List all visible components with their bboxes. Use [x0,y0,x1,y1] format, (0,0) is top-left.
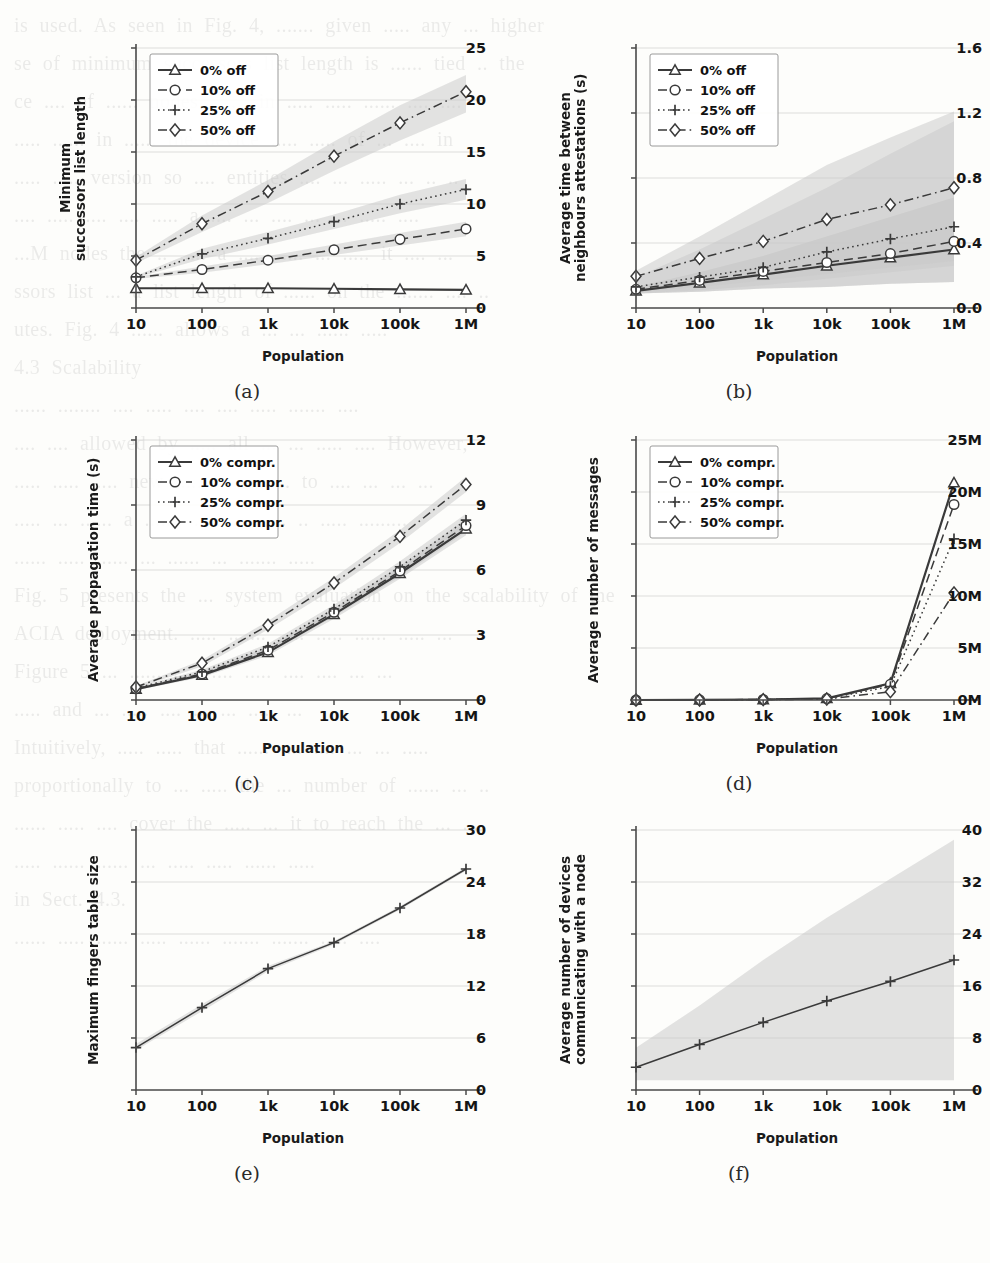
y-tick-label: 6 [367,1030,486,1046]
y-tick-label: 0 [367,692,486,708]
x-tick-label: 10k [812,316,842,332]
y-tick-label: 12 [367,432,486,448]
series-markers [131,864,471,1053]
panel-caption-a: (a) [8,380,486,402]
x-tick-label: 10 [626,708,646,724]
x-tick-label: 100 [187,1098,217,1114]
y-tick-label: 18 [367,926,486,942]
x-tick-label: 1M [454,1098,479,1114]
chart-svg-e [8,808,486,1096]
axis-spines [136,826,482,1090]
x-tick-label: 100k [870,316,910,332]
x-axis-label: Population [496,348,962,364]
panel-caption-e: (e) [8,1162,486,1184]
panel-caption-d: (d) [496,772,982,794]
x-axis-label: Population [496,1130,962,1146]
y-tick-label: 10 [367,196,486,212]
x-tick-label: 100k [870,1098,910,1114]
x-axis-label: Population [8,740,474,756]
y-tick-label: 24 [851,926,982,942]
x-tick-label: 1k [753,316,773,332]
y-tick-label: 9 [367,497,486,513]
y-tick-label: 40 [851,822,982,838]
legend-label: 25% off [200,103,256,118]
x-tick-label: 100 [187,708,217,724]
legend-marker [670,477,680,487]
x-tick-label: 10 [626,1098,646,1114]
y-tick-label: 20M [851,484,982,500]
series-line [136,288,466,290]
legend-label: 50% compr. [700,515,785,530]
chart-panel-b: 0% off10% off25% off50% off0.00.40.81.21… [496,26,982,426]
chart-svg-d: 0% compr.10% compr.25% compr.50% compr. [496,418,982,706]
panel-caption-c: (c) [8,772,486,794]
legend-label: 25% compr. [700,495,785,510]
x-tick-label: 100 [684,1098,714,1114]
y-tick-label: 1.6 [851,40,982,56]
x-tick-label: 1k [258,1098,278,1114]
legend-label: 50% off [700,123,756,138]
y-tick-label: 1.2 [851,105,982,121]
y-tick-label: 5 [367,248,486,264]
x-tick-label: 10 [126,1098,146,1114]
y-tick-label: 16 [851,978,982,994]
y-axis-label: Average number of messages [586,440,601,700]
chart-panel-d: 0% compr.10% compr.25% compr.50% compr.0… [496,418,982,818]
x-tick-label: 1k [753,1098,773,1114]
x-tick-label: 10 [126,316,146,332]
x-tick-label: 1M [942,316,967,332]
legend-label: 25% compr. [200,495,285,510]
panel-caption-b: (b) [496,380,982,402]
legend-marker [170,477,180,487]
legend-label: 10% off [200,83,256,98]
y-tick-label: 12 [367,978,486,994]
x-tick-label: 10k [319,708,349,724]
y-axis-label: Average number of devices communicating … [558,830,588,1090]
y-tick-label: 32 [851,874,982,890]
y-tick-label: 0.8 [851,170,982,186]
y-axis-label: Minimum successors list length [58,48,88,308]
y-tick-label: 0M [851,692,982,708]
legend-marker [670,85,680,95]
x-tick-label: 100k [380,708,420,724]
y-tick-label: 0 [367,1082,486,1098]
x-tick-label: 100 [187,316,217,332]
x-tick-label: 100 [684,708,714,724]
x-axis-label: Population [8,348,474,364]
x-tick-label: 1M [454,316,479,332]
y-tick-label: 30 [367,822,486,838]
x-tick-label: 1M [454,708,479,724]
x-tick-label: 100k [380,1098,420,1114]
x-tick-label: 10k [812,1098,842,1114]
x-tick-label: 1M [942,708,967,724]
x-tick-label: 1M [942,1098,967,1114]
x-tick-label: 10k [319,316,349,332]
legend-label: 0% off [700,63,747,78]
y-tick-label: 3 [367,627,486,643]
x-tick-label: 1k [258,316,278,332]
y-tick-label: 8 [851,1030,982,1046]
panel-caption-f: (f) [496,1162,982,1184]
x-tick-label: 1k [258,708,278,724]
x-tick-label: 10k [319,1098,349,1114]
legend-label: 0% compr. [200,455,276,470]
legend-label: 50% compr. [200,515,285,530]
y-tick-label: 0.0 [851,300,982,316]
x-tick-label: 100 [684,316,714,332]
y-tick-label: 25 [367,40,486,56]
chart-panel-f: 0816243240101001k10k100k1MAverage number… [496,808,982,1208]
chart-panel-e: 0612182430101001k10k100k1MMaximum finger… [8,808,486,1208]
legend-label: 10% compr. [200,475,285,490]
y-tick-label: 0.4 [851,235,982,251]
x-tick-label: 10 [626,316,646,332]
y-axis-label: Average time between neighbours attestat… [558,48,588,308]
uncertainty-band [136,867,466,1050]
y-tick-label: 0 [851,1082,982,1098]
y-tick-label: 0 [367,300,486,316]
x-tick-label: 10 [126,708,146,724]
y-tick-label: 20 [367,92,486,108]
x-tick-label: 100k [870,708,910,724]
y-tick-label: 15M [851,536,982,552]
chart-panel-c: 0% compr.10% compr.25% compr.50% compr.0… [8,418,486,818]
x-tick-label: 100k [380,316,420,332]
